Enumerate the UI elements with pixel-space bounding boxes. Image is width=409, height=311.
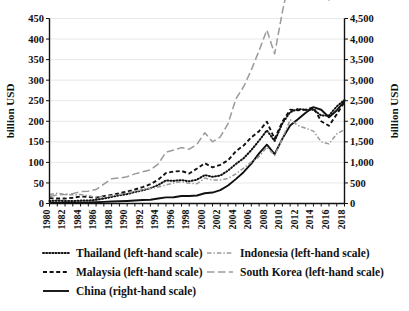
y-tick-left-label: 200	[28, 116, 44, 127]
x-tick-label: 2016	[320, 209, 331, 229]
x-tick-label: 2008	[258, 210, 269, 230]
y-tick-left-label: 150	[28, 136, 44, 147]
x-tick-label: 1984	[72, 209, 83, 229]
figure-background	[0, 0, 409, 311]
y-axis-right-label: billion USD	[388, 84, 400, 139]
y-tick-left-label: 450	[28, 13, 44, 24]
legend-label: South Korea (left-hand scale)	[240, 266, 384, 279]
x-tick-label: 2018	[336, 210, 347, 230]
x-tick-label: 2010	[273, 209, 284, 229]
x-tick-label: 1996	[165, 209, 176, 229]
y-tick-left-label: 100	[28, 157, 44, 168]
legend-label: Thailand (left-hand scale)	[76, 247, 203, 260]
x-tick-label: 1994	[149, 209, 160, 229]
x-tick-label: 2006	[242, 209, 253, 229]
legend-label: China (right-hand scale)	[76, 285, 196, 298]
y-tick-right-label: 4,000	[350, 34, 374, 45]
x-tick-label: 1982	[56, 210, 67, 230]
x-tick-label: 1988	[103, 210, 114, 230]
chart-figure: 050100150200250300350400450 05001,0001,5…	[0, 0, 409, 311]
legend-label: Indonesia (left-hand scale)	[240, 247, 370, 260]
y-tick-left-label: 400	[28, 34, 44, 45]
x-tick-label: 2012	[289, 209, 300, 229]
y-axis-left-label: billion USD	[4, 84, 16, 139]
y-tick-left-label: 50	[34, 178, 45, 189]
y-tick-left-label: 0	[39, 198, 44, 209]
y-tick-right-label: 1,000	[350, 157, 374, 168]
x-tick-label: 1998	[180, 210, 191, 230]
y-tick-left-label: 250	[28, 95, 44, 106]
x-tick-label: 2000	[196, 209, 207, 229]
y-tick-right-label: 500	[350, 178, 366, 189]
x-tick-label: 2002	[211, 210, 222, 230]
y-tick-right-label: 3,000	[350, 75, 374, 86]
y-tick-right-label: 2,500	[350, 95, 374, 106]
y-tick-right-label: 2,000	[350, 116, 374, 127]
y-tick-left-label: 350	[28, 54, 44, 65]
legend-label: Malaysia (left-hand scale)	[76, 266, 203, 279]
x-tick-label: 2004	[227, 210, 238, 230]
y-tick-right-label: 1,500	[350, 136, 374, 147]
x-tick-label: 2014	[304, 210, 315, 230]
x-tick-label: 1980	[41, 210, 52, 230]
x-tick-label: 1992	[134, 210, 145, 230]
y-tick-right-label: 4,500	[350, 13, 374, 24]
x-tick-label: 1986	[87, 210, 98, 230]
y-tick-right-label: 3,500	[350, 54, 374, 65]
x-tick-label: 1990	[118, 209, 129, 229]
y-tick-left-label: 300	[28, 75, 44, 86]
y-tick-right-label: 0	[350, 198, 355, 209]
